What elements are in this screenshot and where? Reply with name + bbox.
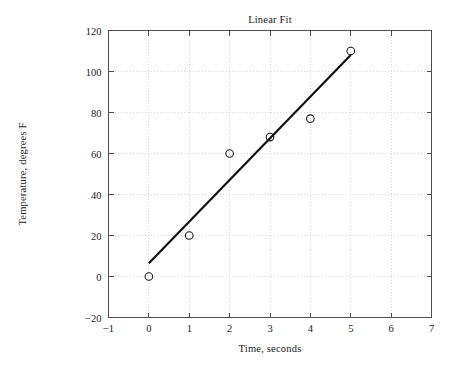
yaxis-label: Temperature, degrees F — [17, 122, 28, 225]
yaxis-tick-label: 100 — [86, 67, 102, 78]
data-point-marker — [347, 47, 355, 55]
xaxis-tick-label: 6 — [389, 323, 394, 334]
xaxis-tick-label: 5 — [348, 323, 353, 334]
yaxis-tick-label: −20 — [85, 313, 101, 324]
figure-canvas: −101234567−20020406080100120Linear FitTi… — [0, 0, 466, 369]
xaxis-tick-label: 3 — [267, 323, 272, 334]
xaxis-tick-label: 1 — [187, 323, 192, 334]
yaxis-tick-label: 0 — [96, 272, 101, 283]
linear-fit-chart: −101234567−20020406080100120Linear FitTi… — [0, 0, 466, 369]
yaxis-tick-label: 60 — [91, 149, 102, 160]
linear-fit-line — [149, 55, 351, 263]
yaxis-tick-label: 120 — [86, 26, 102, 37]
chart-title: Linear Fit — [248, 14, 292, 25]
xaxis-tick-label: −1 — [103, 323, 114, 334]
xaxis-tick-label: 2 — [227, 323, 232, 334]
yaxis-tick-label: 40 — [91, 190, 102, 201]
xaxis-tick-label: 4 — [308, 323, 314, 334]
yaxis-tick-label: 80 — [91, 108, 102, 119]
yaxis-tick-label: 20 — [91, 231, 102, 242]
xaxis-label: Time, seconds — [239, 343, 302, 354]
xaxis-tick-label: 7 — [429, 323, 434, 334]
xaxis-tick-label: 0 — [146, 323, 151, 334]
